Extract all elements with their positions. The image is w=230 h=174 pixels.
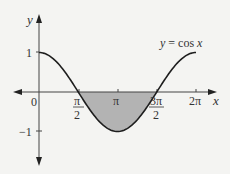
x-tick-label-pi: π [113,94,119,108]
x-axis-label: x [212,93,219,108]
x-tick-label-pi-half-den: 2 [74,108,80,122]
cosine-graph: y 1 0 −1 π 2 π 3π 2 2π x y = cos x [0,0,230,174]
y-tick-label-minus1: −1 [19,125,32,139]
x-tick-label-3pi-half-den: 2 [153,108,159,122]
y-tick-label-1: 1 [26,46,32,60]
y-axis-down-arrow-icon [36,157,42,166]
curve-label-x: x [196,36,203,50]
x-tick-label-pi-half-num: π [74,94,80,108]
origin-label: 0 [31,95,37,109]
x-tick-label-3pi-half-num: 3π [150,94,162,108]
chart-svg: y 1 0 −1 π 2 π 3π 2 2π x y = cos x [0,0,230,174]
curve-label: y = cos x [159,36,203,50]
y-axis-up-arrow-icon [36,14,42,23]
x-axis-left-arrow-icon [13,89,22,95]
curve-label-eq: = cos [165,36,197,50]
y-axis-label: y [25,12,33,27]
x-tick-label-2pi: 2π [189,94,201,108]
